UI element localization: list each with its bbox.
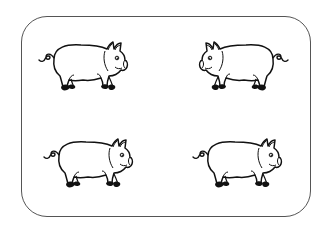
pig-bottom-left-icon bbox=[42, 136, 136, 192]
pig-bottom-right-icon bbox=[191, 136, 285, 192]
pig-top-right-icon bbox=[196, 39, 290, 95]
pig-top-left-icon bbox=[37, 39, 131, 95]
